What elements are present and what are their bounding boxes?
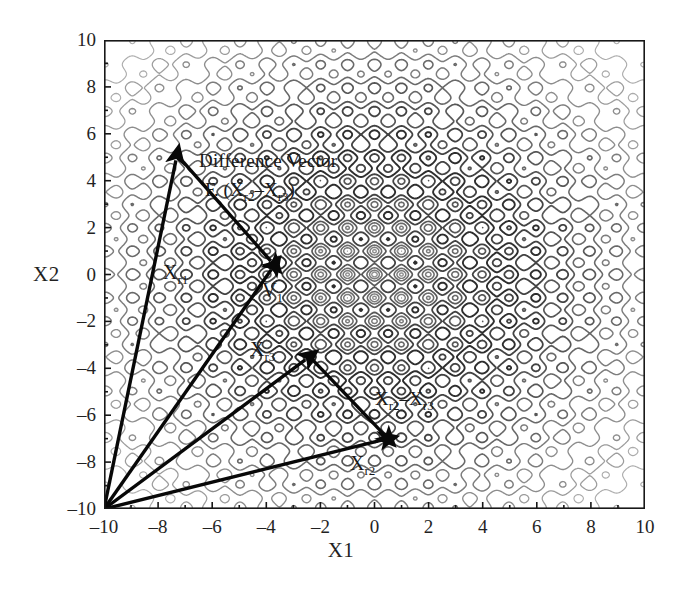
formula-paren-close: ) [289,179,295,200]
v1-base: V [262,279,276,301]
annotation-label-xr2: Xr2 [350,452,375,479]
x-tick-label: 4 [463,516,503,538]
xr3-base: X [250,338,264,360]
x-tick-label: 8 [571,516,611,538]
y-tick-label: 0 [60,264,96,286]
y-tick-label: 2 [60,217,96,239]
formula-xr2-sub: r2 [244,189,255,204]
x-tick-label: –8 [138,516,178,538]
formula-minus: – [254,179,264,200]
annotation-difference-vector-title: Difference Vector [199,150,337,172]
annotation-difference-vector-formula: F. (Xr2–Xr3) [205,179,295,205]
annotation-label-v1: V1 [262,279,283,306]
x-axis-title: X1 [0,538,682,563]
x-tick-label: 6 [517,516,557,538]
formula-xr3: X [264,179,278,200]
xr1-base: X [163,261,177,283]
y-tick-label: –8 [60,451,96,473]
formula-xr2: X [230,179,244,200]
y-tick-label: 4 [60,170,96,192]
formula-f-prefix: F. ( [205,179,230,200]
xr2-sub: r2 [364,463,375,478]
y-tick-label: –6 [60,404,96,426]
xr3-sub: r3 [264,349,275,364]
v1-sub: 1 [276,290,283,305]
y-tick-label: 6 [60,123,96,145]
diff-xr3-sub: r3 [423,398,434,413]
annotation-label-xr2-minus-xr3: Xr2–Xr3 [375,388,434,414]
y-axis-title: X2 [33,262,60,287]
y-axis-tick-labels: –10–8–6–4–20246810 [44,0,96,595]
xr2-base: X [350,452,364,474]
diff-xr2-sub: r2 [389,398,400,413]
y-tick-label: –2 [60,310,96,332]
y-tick-label: 8 [60,76,96,98]
y-tick-label: 10 [60,29,96,51]
formula-xr3-sub: r3 [278,189,289,204]
y-tick-label: –4 [60,357,96,379]
diff-xr3: X [409,388,423,409]
annotation-label-xr3: Xr3 [250,338,275,365]
x-tick-label: 0 [355,516,395,538]
diff-xr2: X [375,388,389,409]
contour-plot-figure: –10–8–6–4–20246810 X2 –10–8–6–4–20246810… [0,0,682,595]
x-tick-label: 10 [625,516,665,538]
x-tick-label: –10 [84,516,124,538]
x-tick-label: 2 [409,516,449,538]
x-tick-label: –4 [246,516,286,538]
xr1-sub: r1 [177,272,188,287]
x-tick-label: –2 [300,516,340,538]
x-tick-label: –6 [192,516,232,538]
annotation-label-xr1: Xr1 [163,261,188,288]
diff-minus: – [400,388,410,409]
